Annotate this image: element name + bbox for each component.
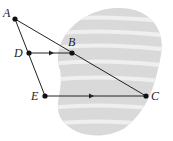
shaded-region (50, 8, 170, 136)
point-C (143, 93, 148, 98)
point-D (26, 50, 31, 55)
point-A (12, 16, 17, 21)
label-E: E (30, 89, 39, 103)
label-B: B (68, 35, 76, 49)
label-A: A (2, 6, 11, 20)
label-C: C (151, 89, 160, 103)
point-E (42, 93, 47, 98)
label-D: D (13, 46, 23, 60)
geometry-diagram: A B C D E (0, 0, 173, 141)
parallel-arrow-DB-icon (49, 51, 54, 56)
point-B (69, 50, 74, 55)
